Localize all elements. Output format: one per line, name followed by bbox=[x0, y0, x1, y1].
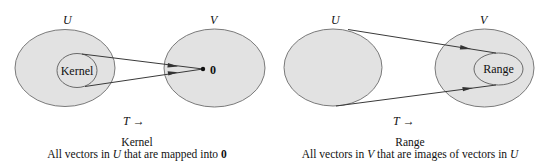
kernel-map-label: T bbox=[123, 114, 130, 128]
kernel-caption-title: Kernel bbox=[37, 136, 237, 148]
kernel-panel: U V Kernel 0 bbox=[15, 13, 265, 107]
right-arrow-icon: → bbox=[403, 114, 415, 128]
range-label-u: U bbox=[331, 13, 341, 27]
kernel-subset-label: Kernel bbox=[61, 64, 94, 78]
kernel-caption: Kernel All vectors in U that are mapped … bbox=[37, 136, 237, 160]
kernel-label-u: U bbox=[63, 13, 73, 27]
kernel-label-v: V bbox=[210, 13, 219, 27]
zero-vector-label: 0 bbox=[210, 63, 216, 77]
right-arrow-icon: → bbox=[133, 114, 145, 128]
range-caption-title: Range bbox=[300, 136, 520, 148]
range-label-v: V bbox=[480, 13, 489, 27]
range-caption: Range All vectors in V that are images o… bbox=[300, 136, 520, 160]
kernel-caption-description: All vectors in U that are mapped into 0 bbox=[37, 148, 237, 160]
zero-vector-dot bbox=[201, 67, 205, 71]
range-caption-description: All vectors in V that are images of vect… bbox=[300, 148, 520, 160]
range-subset-label: Range bbox=[483, 62, 514, 76]
kernel-map-indicator: T → bbox=[123, 114, 145, 129]
range-map-indicator: T → bbox=[393, 114, 415, 129]
range-map-label: T bbox=[393, 114, 400, 128]
range-panel: U V Range bbox=[284, 13, 534, 107]
range-domain-set-u bbox=[284, 29, 382, 106]
